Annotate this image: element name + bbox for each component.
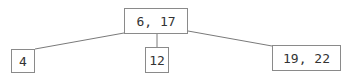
edge-root-to-left — [35, 33, 124, 49]
root-node: 6, 17 — [124, 8, 188, 34]
child-node-middle-keys: 12 — [149, 53, 165, 68]
root-node-keys: 6, 17 — [136, 14, 175, 29]
child-node-right-keys: 19, 22 — [283, 51, 330, 66]
edge-root-to-right — [188, 31, 272, 46]
child-node-left-keys: 4 — [19, 54, 27, 69]
child-node-middle: 12 — [145, 47, 169, 73]
child-node-left: 4 — [11, 49, 35, 73]
child-node-right: 19, 22 — [272, 45, 341, 71]
